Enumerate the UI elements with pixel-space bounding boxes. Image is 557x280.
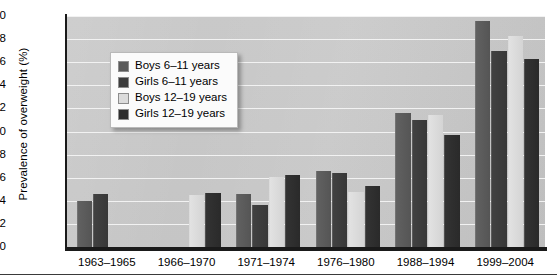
bar [285, 175, 301, 247]
legend-item-label: Girls 12–19 years [135, 108, 225, 120]
x-axis-line [65, 247, 547, 251]
y-axis-tick-label: 10 [0, 126, 6, 138]
legend-item-label: Boys 6–11 years [135, 60, 220, 72]
y-axis-tick-label: 14 [0, 80, 6, 92]
legend-swatch-icon [118, 93, 129, 104]
x-axis-tick-label: 1966–1970 [158, 256, 216, 268]
bar [205, 193, 221, 247]
legend-item-label: Boys 12–19 years [135, 92, 227, 104]
legend-item: Girls 6–11 years [118, 74, 227, 90]
bar [236, 194, 252, 247]
bar [412, 120, 428, 247]
y-axis-tick-label: 4 [0, 195, 6, 207]
bar [444, 135, 460, 247]
legend-swatch-icon [118, 109, 129, 120]
x-axis-tick-label: 1971–1974 [237, 256, 295, 268]
y-axis-title: Prevalence of overweight (%) [17, 4, 29, 244]
plot-area [67, 16, 545, 247]
bar [491, 51, 507, 247]
y-axis-tick-label: 12 [0, 103, 6, 115]
bar [332, 173, 348, 247]
x-axis-tick-labels: 1963–19651966–19701971–19741976–19801988… [67, 256, 545, 274]
bar [475, 21, 491, 247]
bar [316, 171, 332, 247]
bar [428, 115, 444, 247]
bar [524, 59, 540, 247]
y-axis-tick-label: 18 [0, 33, 6, 45]
chart-legend: Boys 6–11 yearsGirls 6–11 yearsBoys 12–1… [110, 52, 238, 128]
x-axis-tick-label: 1999–2004 [476, 256, 534, 268]
x-axis-tick-label: 1988–1994 [397, 256, 455, 268]
y-axis-tick-label: 8 [0, 149, 6, 161]
x-axis-tick-label: 1976–1980 [317, 256, 375, 268]
x-axis-tick-label: 1963–1965 [78, 256, 136, 268]
y-axis-tick-label: 6 [0, 172, 6, 184]
bar [252, 205, 268, 247]
footer-rule [0, 274, 557, 275]
legend-swatch-icon [118, 77, 129, 88]
y-axis-tick-label: 20 [0, 10, 6, 22]
y-axis-tick-label: 16 [0, 56, 6, 68]
bar [77, 201, 93, 247]
bar [395, 113, 411, 247]
bar [365, 186, 381, 247]
bar [93, 194, 109, 247]
overweight-prevalence-bar-chart: Prevalence of overweight (%) 02468101214… [0, 0, 557, 280]
legend-item: Girls 12–19 years [118, 106, 227, 122]
legend-item-label: Girls 6–11 years [135, 76, 218, 88]
y-axis-tick-label: 2 [0, 218, 6, 230]
bar [508, 36, 524, 247]
legend-swatch-icon [118, 61, 129, 72]
bar [189, 195, 205, 247]
bar [348, 192, 364, 247]
bar [269, 177, 285, 247]
bar-series-container [67, 16, 545, 247]
legend-item: Boys 12–19 years [118, 90, 227, 106]
y-axis-tick-label: 0 [0, 241, 6, 253]
legend-item: Boys 6–11 years [118, 58, 227, 74]
